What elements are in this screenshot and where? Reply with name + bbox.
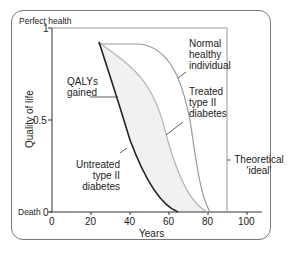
ideal-label: Theoretical'ideal' [231,154,287,176]
y-axis-label: Quality of life [24,90,35,148]
x-tick-20: 20 [85,216,96,227]
x-tick-0: 0 [49,216,55,227]
x-tick-80: 80 [202,216,213,227]
untreated-label: Untreatedtype IIdiabetes [70,159,120,192]
y-tick-05: 0.5 [33,115,47,126]
y-tick-1: 1 [43,23,49,34]
y-tick-0: 0 [43,207,49,218]
x-tick-40: 40 [124,216,135,227]
death-label: Death [18,208,41,217]
normal-healthy-label: Normalhealthyindividual [189,38,231,71]
treated-label: Treatedtype IIdiabetes [189,86,227,119]
x-tick-100: 100 [238,216,255,227]
qalys-gained-label: QALYsgained [67,76,98,98]
x-axis-label: Years [139,228,164,239]
x-tick-60: 60 [163,216,174,227]
